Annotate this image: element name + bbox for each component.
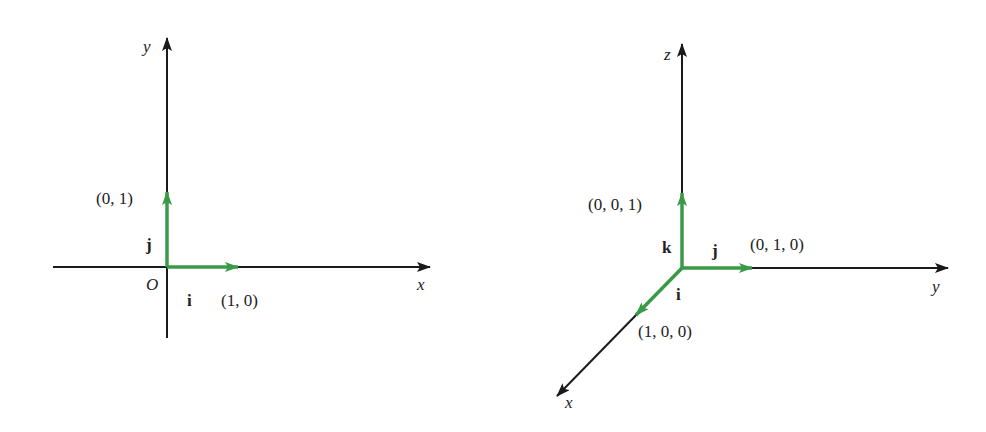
- vector-i-label-2d: i: [187, 291, 192, 310]
- y-axis-label-2d: y: [141, 37, 151, 56]
- vector-j-label-2d: j: [145, 235, 152, 254]
- x-axis-label-3d: x: [564, 393, 573, 412]
- vector-i-endpoint-3d: (1, 0, 0): [638, 322, 692, 341]
- vector-j-label-3d: j: [711, 241, 718, 260]
- vector-i-label-3d: i: [676, 285, 681, 304]
- x-axis-label-2d: x: [416, 275, 425, 294]
- y-axis-label-3d: y: [930, 277, 940, 296]
- vector-j-endpoint-2d: (0, 1): [96, 189, 133, 208]
- z-axis-label-3d: z: [663, 45, 671, 64]
- diagram-3d: z y x k (0, 0, 1) j (0, 1, 0) i (1, 0, 0…: [557, 44, 948, 412]
- origin-label: O: [146, 275, 158, 294]
- vector-j-endpoint-3d: (0, 1, 0): [750, 235, 804, 254]
- vector-i-endpoint-2d: (1, 0): [221, 291, 258, 310]
- unit-vectors-figure: y x O i (1, 0) j (0, 1) z y x k (0, 0, 1…: [0, 0, 986, 432]
- diagram-2d: y x O i (1, 0) j (0, 1): [53, 37, 430, 338]
- vector-k-label-3d: k: [662, 238, 672, 257]
- vector-k-endpoint-3d: (0, 0, 1): [588, 195, 642, 214]
